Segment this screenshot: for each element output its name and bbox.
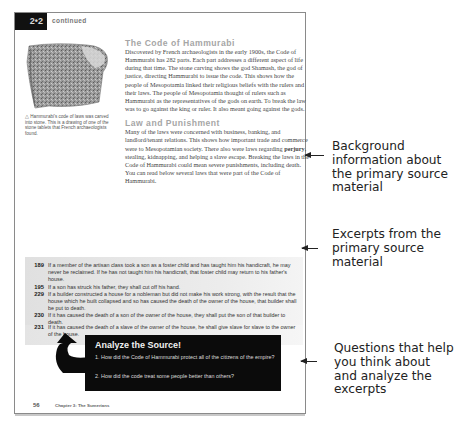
section-body-law: Many of the laws were concerned with bus…: [125, 128, 311, 185]
annotation-background: Background information about the primary…: [332, 140, 454, 195]
section-heading-code: The Code of Hammurabi: [125, 38, 311, 48]
arrow-left-icon: [302, 248, 318, 249]
law-number: 231: [30, 324, 44, 331]
law-number: 229: [30, 291, 44, 298]
analyze-question-1: 1. How did the Code of Hammurabi protect…: [95, 354, 275, 361]
analyze-question-2: 2. How did the code treat some people be…: [95, 373, 275, 380]
arrow-left-icon: [305, 155, 324, 156]
section-body-code: Discovered by French archaeologists in t…: [125, 48, 311, 113]
lesson-number-tab: 2•2: [15, 13, 47, 30]
continued-label: continued: [52, 17, 87, 24]
law-number: 189: [30, 262, 44, 269]
law-number: 230: [30, 312, 44, 319]
law-text: If a member of the artisan class took a …: [48, 262, 298, 284]
textbook-page: 2•2 continued △ Hammurabi's code of laws…: [14, 12, 306, 414]
arrow-left-icon: [301, 361, 317, 362]
analyze-the-source-box: Analyze the Source! 1. How did the Code …: [85, 335, 281, 391]
law-text: If a builder constructed a house for a n…: [48, 291, 298, 313]
excerpts-box: 189 If a member of the artisan class too…: [25, 257, 303, 325]
annotation-questions: Questions that help you think about and …: [334, 342, 454, 397]
annotation-excerpts: Excerpts from the primary source materia…: [332, 228, 454, 269]
image-caption: △ Hammurabi's code of laws was carved in…: [25, 114, 115, 136]
section-heading-law: Law and Punishment: [125, 118, 311, 128]
glossary-term-perjury: perjury: [284, 145, 304, 152]
background-text-column: The Code of Hammurabi Discovered by Fren…: [125, 38, 311, 190]
chapter-title: Chapter 3: The Sumerians: [55, 403, 109, 408]
page-number: 56: [33, 402, 40, 408]
stone-tablet-image: [25, 42, 110, 110]
analyze-title: Analyze the Source!: [95, 340, 181, 350]
